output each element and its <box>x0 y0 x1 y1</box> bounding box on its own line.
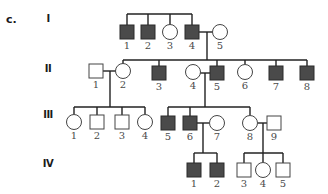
individual-number: 4 <box>142 130 148 141</box>
individual-i-5: 5 <box>213 25 228 52</box>
pedigree-chart: 123451234567812345678912345 <box>0 0 328 194</box>
unaffected-female-circle-icon <box>243 116 258 131</box>
individual-iii-1: 1 <box>67 115 82 142</box>
individual-iv-2: 2 <box>210 163 224 189</box>
affected-male-square-icon <box>141 25 155 39</box>
individual-iii-7: 7 <box>210 116 225 143</box>
individual-i-1: 1 <box>120 25 134 51</box>
individual-iii-8: 8 <box>243 116 258 143</box>
individual-ii-4: 4 <box>186 65 201 92</box>
unaffected-female-circle-icon <box>186 65 201 80</box>
individual-ii-2: 2 <box>116 64 131 91</box>
individual-number: 4 <box>190 80 196 91</box>
individual-number: 7 <box>214 131 220 142</box>
individual-number: 1 <box>124 40 130 51</box>
individual-i-2: 2 <box>141 25 155 51</box>
individual-iii-5: 5 <box>161 116 175 142</box>
affected-male-square-icon <box>120 25 134 39</box>
unaffected-male-square-icon <box>276 163 290 177</box>
affected-male-square-icon <box>210 66 224 80</box>
individual-number: 3 <box>119 130 125 141</box>
individual-iii-4: 4 <box>138 115 153 142</box>
individual-number: 2 <box>145 40 151 51</box>
individual-iii-2: 2 <box>90 115 104 141</box>
affected-male-square-icon <box>185 25 199 39</box>
individual-number: 2 <box>94 130 100 141</box>
unaffected-female-circle-icon <box>238 65 253 80</box>
individual-number: 1 <box>191 178 197 189</box>
individual-iii-6: 6 <box>183 116 197 142</box>
individual-number: 5 <box>217 40 223 51</box>
individual-number: 1 <box>93 79 99 90</box>
unaffected-female-circle-icon <box>116 64 131 79</box>
individual-ii-7: 7 <box>269 66 283 92</box>
individual-number: 6 <box>187 131 193 142</box>
affected-male-square-icon <box>210 163 224 177</box>
individual-number: 4 <box>260 178 266 189</box>
unaffected-female-circle-icon <box>256 163 271 178</box>
affected-male-square-icon <box>183 116 197 130</box>
individual-ii-8: 8 <box>300 66 314 92</box>
affected-male-square-icon <box>152 66 166 80</box>
unaffected-female-circle-icon <box>213 25 228 40</box>
individual-iv-1: 1 <box>187 163 201 189</box>
affected-male-square-icon <box>161 116 175 130</box>
unaffected-male-square-icon <box>115 115 129 129</box>
affected-male-square-icon <box>269 66 283 80</box>
individual-iv-5: 5 <box>276 163 290 189</box>
individual-iv-4: 4 <box>256 163 271 190</box>
individual-number: 7 <box>273 81 279 92</box>
unaffected-male-square-icon <box>267 116 281 130</box>
unaffected-female-circle-icon <box>67 115 82 130</box>
individual-number: 3 <box>241 178 247 189</box>
individual-i-3: 3 <box>163 25 178 52</box>
affected-male-square-icon <box>187 163 201 177</box>
individual-ii-6: 6 <box>238 65 253 92</box>
unaffected-female-circle-icon <box>138 115 153 130</box>
individual-number: 3 <box>156 81 162 92</box>
individual-ii-3: 3 <box>152 66 166 92</box>
individual-number: 8 <box>247 131 253 142</box>
individual-number: 5 <box>280 178 286 189</box>
individual-number: 6 <box>242 80 248 91</box>
affected-male-square-icon <box>300 66 314 80</box>
individual-iii-9: 9 <box>267 116 281 142</box>
individual-number: 3 <box>167 40 173 51</box>
unaffected-female-circle-icon <box>163 25 178 40</box>
individual-number: 2 <box>214 178 220 189</box>
individual-number: 1 <box>71 130 77 141</box>
unaffected-male-square-icon <box>90 115 104 129</box>
unaffected-male-square-icon <box>237 163 251 177</box>
individual-ii-1: 1 <box>89 64 103 90</box>
unaffected-female-circle-icon <box>210 116 225 131</box>
individual-number: 2 <box>120 79 126 90</box>
individual-number: 5 <box>214 81 220 92</box>
individual-iv-3: 3 <box>237 163 251 189</box>
individual-number: 5 <box>165 131 171 142</box>
individual-number: 8 <box>304 81 310 92</box>
unaffected-male-square-icon <box>89 64 103 78</box>
individual-i-4: 4 <box>185 25 199 51</box>
individual-ii-5: 5 <box>210 66 224 92</box>
individual-iii-3: 3 <box>115 115 129 141</box>
individual-number: 4 <box>189 40 195 51</box>
individual-number: 9 <box>271 131 277 142</box>
